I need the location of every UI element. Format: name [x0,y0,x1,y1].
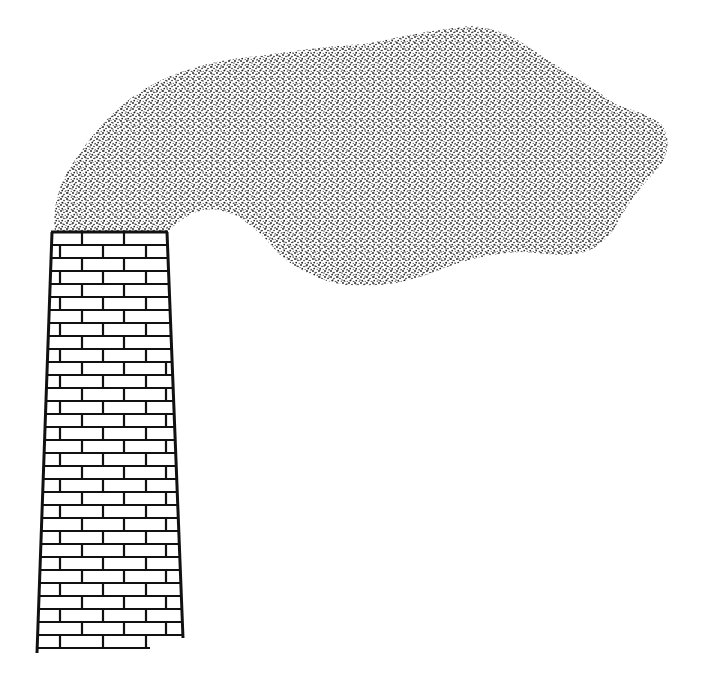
brick-chimney [37,232,183,653]
smokestack-drawing [0,0,721,679]
